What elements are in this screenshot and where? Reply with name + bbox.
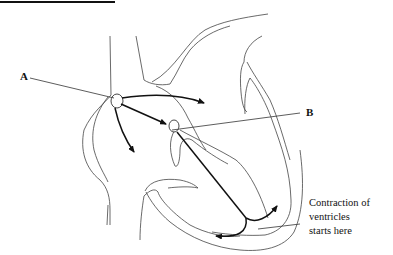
arrow-to-av-node — [121, 104, 166, 124]
contraction-caption: Contraction of ventricles starts here — [309, 196, 393, 238]
caption-line-3: starts here — [309, 224, 393, 238]
caption-line-2: ventricles — [309, 210, 393, 224]
impulse-arrows — [115, 95, 277, 236]
arrow-to-left-atrium — [122, 95, 204, 103]
arrow-down-right-atrium — [115, 108, 134, 152]
av-node — [169, 120, 179, 132]
caption-line-1: Contraction of — [309, 196, 393, 210]
heart-outline — [83, 14, 303, 250]
bundle-of-his — [177, 132, 246, 218]
pointer-line-caption — [258, 224, 300, 229]
label-b: B — [306, 106, 313, 118]
pointer-line-a — [30, 78, 114, 98]
arrow-purkinje-right — [246, 206, 277, 220]
pointer-line-b — [172, 113, 300, 130]
sa-node — [111, 94, 123, 108]
label-a: A — [20, 70, 28, 82]
